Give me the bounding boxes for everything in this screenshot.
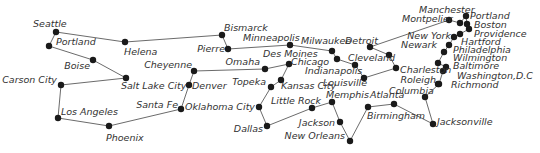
city-label-jackson: Jackson [297, 117, 335, 128]
city-node-topeka [268, 84, 274, 90]
city-node-new_orleans [347, 138, 353, 144]
city-node-portland_or [46, 43, 52, 49]
city-label-montpelier: Montpelier [402, 13, 454, 24]
city-node-newark [446, 42, 452, 48]
city-label-minneapolis: Minneapolis [243, 32, 300, 43]
city-node-seattle [53, 29, 59, 35]
city-label-milwaukee: Milwaukee [301, 35, 351, 46]
city-label-helena: Helena [124, 46, 157, 57]
city-node-dallas [264, 123, 270, 129]
route-edge-des_moines-omaha [265, 64, 289, 69]
city-label-jacksonville: Jacksonville [435, 116, 493, 127]
city-label-oklahoma_city: Oklahoma City [185, 101, 255, 112]
city-label-memphis: Memphis [326, 89, 369, 100]
route-edge-omaha-cheyenne [194, 69, 265, 71]
route-edge-oklahoma_city-topeka [259, 87, 271, 107]
route-edge-carson_city-salt_lake_city [61, 78, 126, 85]
city-node-helena [122, 39, 128, 45]
city-label-boise: Boise [64, 60, 90, 71]
city-label-pierre: Pierre [197, 43, 225, 54]
city-node-milwaukee [329, 48, 335, 54]
city-label-detroit: Detroit [345, 35, 379, 46]
route-edge-louisville-charleston [364, 68, 396, 78]
route-edge-salt_lake_city-boise [93, 60, 126, 78]
city-label-new_orleans: New Orleans [285, 130, 345, 141]
city-label-santa_fe: Santa Fe [136, 99, 178, 110]
city-node-boston [464, 21, 470, 27]
city-label-birmingham: Birmingham [367, 110, 425, 121]
city-node-chicago [334, 56, 340, 62]
city-label-cheyenne: Cheyenne [144, 59, 192, 70]
city-route-map: SeattlePortlandHelenaBismarckPierreBoise… [0, 0, 540, 153]
city-node-pierre [225, 46, 231, 52]
city-label-topeka: Topeka [232, 76, 266, 87]
city-label-roleigh: Roleigh [400, 74, 436, 85]
city-node-philadelphia [441, 49, 447, 55]
route-edge-phoenix-los_angeles [58, 118, 109, 126]
city-label-louisville: Louisville [323, 77, 367, 88]
route-edge-boise-portland_or [49, 46, 93, 60]
city-label-cleveland: Cleveland [348, 52, 396, 63]
city-node-charleston [393, 65, 399, 71]
city-node-birmingham [391, 101, 397, 107]
city-node-manchester [457, 20, 463, 26]
route-edge-santa_fe-phoenix [109, 109, 181, 126]
city-node-santa_fe [178, 106, 184, 112]
route-edge-birmingham-atlanta [368, 104, 394, 107]
city-label-dallas: Dallas [234, 123, 263, 134]
city-label-portland_or: Portland [56, 36, 97, 47]
city-label-denver: Denver [192, 80, 228, 91]
city-node-richmond [436, 81, 442, 87]
city-node-oklahoma_city [256, 104, 262, 110]
city-label-salt_lake_city: Salt Lake City [121, 80, 187, 91]
city-label-seattle: Seattle [33, 18, 67, 29]
route-edge-atlanta-new_orleans [350, 107, 368, 141]
city-node-jackson [337, 119, 343, 125]
city-label-carson_city: Carson City [2, 74, 57, 85]
city-label-new_york: New York [407, 30, 451, 41]
route-edge-helena-bismarck [125, 35, 222, 42]
city-node-phoenix [106, 123, 112, 129]
city-label-columbia: Columbia [389, 85, 434, 96]
city-node-carson_city [58, 82, 64, 88]
city-node-boise [90, 57, 96, 63]
city-label-little_rock: Little Rock [271, 95, 322, 106]
city-label-washington_dc: Washington,D.C [457, 70, 533, 81]
city-label-omaha: Omaha [226, 56, 261, 67]
city-label-phoenix: Phoenix [106, 132, 144, 143]
route-edge-columbia-jacksonville [425, 97, 433, 124]
city-label-portland_me: Portland [470, 10, 511, 21]
city-label-indianapolis: Indianapolis [305, 65, 362, 76]
city-node-new_york [451, 34, 457, 40]
city-node-omaha [262, 66, 268, 72]
city-node-jacksonville [430, 121, 436, 127]
city-label-los_angeles: Los Angeles [61, 106, 118, 117]
